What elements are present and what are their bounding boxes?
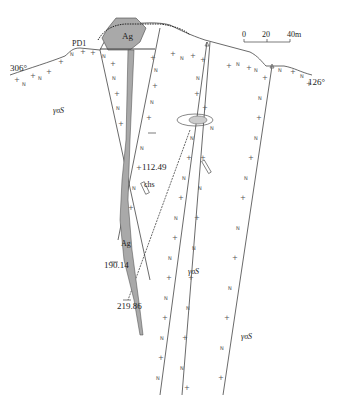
svg-text:N: N xyxy=(102,53,106,59)
svg-text:+: + xyxy=(184,384,190,392)
orientation-left: 306° xyxy=(10,64,27,73)
svg-text:+: + xyxy=(128,204,134,212)
ore-label-top: Ag xyxy=(122,32,133,41)
svg-text:+: + xyxy=(190,52,196,60)
svg-text:N: N xyxy=(182,175,186,181)
svg-text:N: N xyxy=(168,255,172,261)
svg-text:+: + xyxy=(182,334,188,342)
orientation-right: 126° xyxy=(308,78,325,87)
svg-text:+: + xyxy=(150,54,156,62)
rock-unit-left: γσS xyxy=(53,107,64,115)
svg-text:+: + xyxy=(186,154,192,162)
svg-text:N: N xyxy=(22,81,26,87)
svg-text:N: N xyxy=(140,145,144,151)
svg-text:N: N xyxy=(164,295,168,301)
rock-unit-center: γσS xyxy=(188,268,199,276)
svg-text:N: N xyxy=(150,99,154,105)
svg-text:+: + xyxy=(58,58,64,66)
svg-text:+: + xyxy=(46,68,52,76)
svg-text:+: + xyxy=(224,314,230,322)
svg-text:+: + xyxy=(194,90,200,98)
drillhole-depth-2: 190.14 xyxy=(104,261,129,270)
svg-text:+: + xyxy=(80,48,86,56)
svg-text:N: N xyxy=(70,51,74,57)
svg-text:+: + xyxy=(202,104,208,112)
alteration-label: chs xyxy=(144,181,155,189)
svg-text:N: N xyxy=(196,75,200,81)
svg-text:N: N xyxy=(180,365,184,371)
svg-text:+: + xyxy=(166,274,172,282)
svg-text:+: + xyxy=(158,354,164,362)
svg-text:+: + xyxy=(170,50,176,58)
svg-text:+: + xyxy=(256,114,262,122)
svg-text:+: + xyxy=(114,90,120,98)
svg-text:+: + xyxy=(226,62,232,70)
svg-text:N: N xyxy=(116,105,120,111)
adit-label: PD1 xyxy=(72,40,86,48)
svg-text:N: N xyxy=(180,55,184,61)
svg-text:N: N xyxy=(236,61,240,67)
svg-text:N: N xyxy=(192,245,196,251)
svg-text:+: + xyxy=(246,64,252,72)
ore-label-lower: Ag xyxy=(121,240,131,248)
svg-text:N: N xyxy=(132,185,136,191)
scale-tick-40: 40m xyxy=(287,31,301,39)
svg-text:N: N xyxy=(236,225,240,231)
svg-text:N: N xyxy=(254,135,258,141)
svg-text:+: + xyxy=(14,76,20,84)
svg-text:N: N xyxy=(300,73,304,79)
svg-text:N: N xyxy=(210,125,214,131)
drillhole-depth-3: 219.86 xyxy=(117,302,142,311)
svg-text:+: + xyxy=(162,314,168,322)
svg-text:+: + xyxy=(200,56,206,64)
svg-text:+: + xyxy=(172,234,178,242)
svg-text:N: N xyxy=(198,185,202,191)
svg-text:+: + xyxy=(200,154,206,162)
svg-text:+: + xyxy=(152,82,158,90)
svg-text:+: + xyxy=(218,374,224,382)
svg-text:+: + xyxy=(30,72,36,80)
svg-text:N: N xyxy=(38,75,42,81)
svg-text:N: N xyxy=(174,215,178,221)
svg-text:N: N xyxy=(156,375,160,381)
svg-text:N: N xyxy=(228,285,232,291)
svg-text:N: N xyxy=(160,335,164,341)
svg-text:+: + xyxy=(146,114,152,122)
svg-text:+: + xyxy=(110,60,116,68)
svg-text:+: + xyxy=(262,74,268,82)
svg-text:+: + xyxy=(90,49,96,57)
scale-bar xyxy=(244,39,290,42)
svg-text:+: + xyxy=(118,120,124,128)
svg-text:N: N xyxy=(186,305,190,311)
cross-section-diagram: +N+N++ N++N +N+N+ +N+N+ N+N+ +N++ N+N+ N… xyxy=(0,0,338,397)
svg-text:N: N xyxy=(278,67,282,73)
svg-text:+: + xyxy=(232,254,238,262)
ore-vein xyxy=(120,50,143,335)
rock-unit-right: γσS xyxy=(241,333,252,341)
svg-text:+: + xyxy=(178,194,184,202)
svg-text:N: N xyxy=(190,135,194,141)
drillhole-depth-1: 112.49 xyxy=(142,163,166,172)
svg-text:+: + xyxy=(248,154,254,162)
scale-tick-20: 20 xyxy=(262,31,270,39)
svg-text:+: + xyxy=(194,214,200,222)
svg-text:+: + xyxy=(290,68,296,76)
svg-text:N: N xyxy=(254,67,258,73)
svg-text:+: + xyxy=(240,194,246,202)
svg-text:N: N xyxy=(154,67,158,73)
scale-tick-0: 0 xyxy=(242,31,246,39)
svg-text:N: N xyxy=(112,75,116,81)
svg-text:N: N xyxy=(258,95,262,101)
svg-text:N: N xyxy=(220,345,224,351)
svg-text:N: N xyxy=(244,175,248,181)
